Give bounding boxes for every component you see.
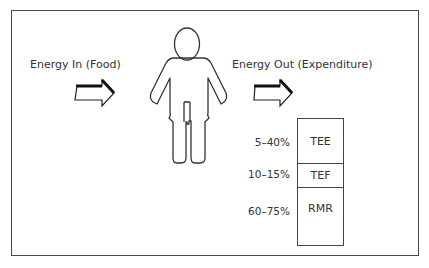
energy-expenditure-stack: TEE TEF RMR (297, 118, 344, 246)
tef-segment: TEF (298, 163, 343, 187)
diagram-graphics (0, 0, 429, 268)
human-figure-icon (150, 28, 226, 163)
energy-out-arrow-icon (254, 80, 292, 106)
rmr-percent: 60–75% (240, 205, 290, 217)
energy-in-arrow-icon (75, 80, 114, 106)
tee-segment: TEE (298, 119, 343, 163)
tee-percent: 5–40% (240, 136, 290, 148)
rmr-segment: RMR (298, 187, 343, 245)
tef-percent: 10–15% (240, 168, 290, 180)
